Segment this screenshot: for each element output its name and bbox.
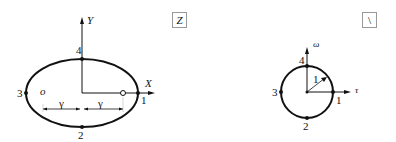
- y-axis-arrow-icon: [80, 17, 84, 24]
- zeta-plane-label: \: [362, 12, 377, 28]
- omega-axis-arrow-icon: [305, 47, 309, 54]
- point-1-label: 1: [141, 95, 147, 106]
- tau-axis-label: τ: [355, 86, 358, 95]
- circle-point-2-label: 2: [303, 121, 309, 132]
- x-axis-label: X: [145, 78, 152, 89]
- point-3-label: 3: [17, 88, 23, 99]
- circle-point-1-label: 1: [336, 95, 342, 106]
- radius-arrow-icon: [321, 77, 327, 82]
- focus-left-label: o: [40, 86, 46, 97]
- tau-axis-arrow-icon: [344, 90, 351, 94]
- diagram-canvas: [0, 0, 396, 142]
- point-4-label: 4: [76, 45, 82, 56]
- y-axis-label: Y: [87, 15, 93, 26]
- point-2-label: 2: [78, 130, 84, 141]
- circle-point-4-label: 4: [299, 55, 305, 66]
- circle-point-3-label: 3: [272, 87, 278, 98]
- x-axis-arrow-icon: [148, 91, 155, 95]
- radius-label: 1: [313, 74, 319, 85]
- gamma-left-label: γ: [59, 98, 64, 109]
- focus-right: [121, 91, 126, 96]
- omega-axis-label: ω: [313, 40, 319, 49]
- z-plane-label: Z: [172, 12, 187, 28]
- gamma-right-label: γ: [98, 98, 103, 109]
